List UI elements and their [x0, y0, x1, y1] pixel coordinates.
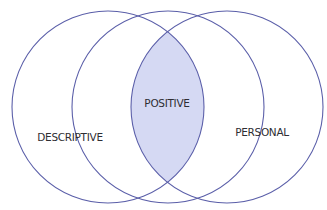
venn-diagram: DESCRIPTIVE POSITIVE PERSONAL: [0, 0, 327, 210]
personal-label: PERSONAL: [235, 126, 289, 138]
descriptive-label: DESCRIPTIVE: [37, 131, 102, 143]
positive-label: POSITIVE: [144, 97, 189, 109]
